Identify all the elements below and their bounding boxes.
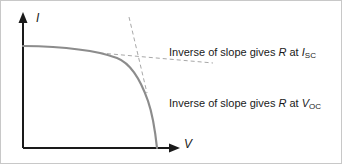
- y-axis-arrowhead: [19, 12, 28, 23]
- y-axis-label: I: [36, 12, 39, 24]
- annotation-voc-prefix: Inverse of slope gives: [169, 97, 278, 109]
- x-axis-label: V: [184, 138, 192, 150]
- iv-curve: [23, 46, 157, 148]
- annotation-voc: Inverse of slope gives R at VOC: [169, 98, 321, 111]
- annotation-voc-quantity-symbol: V: [302, 97, 309, 109]
- tangent-line-voc: [129, 17, 147, 93]
- annotation-isc-prefix: Inverse of slope gives: [169, 46, 278, 58]
- plot-canvas: [1, 1, 342, 164]
- y-axis: [19, 12, 28, 148]
- annotation-isc-middle: at: [286, 46, 301, 58]
- iv-curve-figure: I V Inverse of slope gives R at ISC Inve…: [0, 0, 342, 164]
- annotation-voc-middle: at: [286, 97, 301, 109]
- x-axis-arrowhead: [169, 144, 180, 153]
- annotation-voc-quantity-subscript: OC: [309, 102, 321, 111]
- annotation-isc: Inverse of slope gives R at ISC: [169, 47, 316, 60]
- annotation-isc-quantity-subscript: SC: [305, 51, 316, 60]
